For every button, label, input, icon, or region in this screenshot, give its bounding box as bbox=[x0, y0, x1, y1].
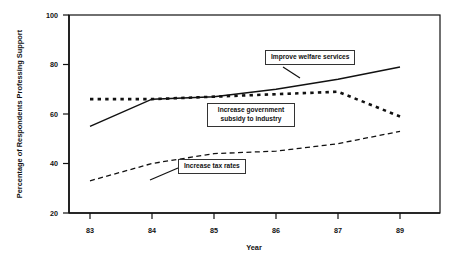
x-tick-label-83: 83 bbox=[86, 226, 94, 235]
x-tick-label-87: 87 bbox=[334, 226, 342, 235]
x-axis-title: Year bbox=[246, 243, 262, 252]
annotation-welfare-text: Improve welfare services bbox=[271, 53, 349, 60]
annotation-tax-text: Increase tax rates bbox=[184, 162, 240, 169]
x-tick-label-86: 86 bbox=[272, 226, 280, 235]
annotation-increase-tax-rates: Increase tax rates bbox=[178, 159, 246, 174]
callout-leader-tax bbox=[150, 168, 178, 180]
x-tick-label-84: 84 bbox=[148, 226, 156, 235]
chart-container: 100 80 60 40 20 83 84 85 86 87 89 Year P… bbox=[0, 0, 460, 262]
line-chart-plot: 100 80 60 40 20 83 84 85 86 87 89 Year P… bbox=[0, 0, 460, 262]
y-tick-label-60: 60 bbox=[50, 110, 58, 119]
callout-leader-welfare bbox=[283, 67, 300, 78]
annotation-increase-government-subsidy: Increase government subsidy to industry bbox=[207, 103, 295, 127]
annotation-subsidy-line1: Increase government bbox=[218, 106, 284, 113]
annotation-improve-welfare-services: Improve welfare services bbox=[265, 50, 355, 65]
y-tick-label-40: 40 bbox=[50, 159, 58, 168]
y-tick-label-80: 80 bbox=[50, 60, 58, 69]
y-tick-label-100: 100 bbox=[46, 11, 58, 20]
y-axis-title: Percentage of Respondents Professing Sup… bbox=[15, 29, 24, 198]
x-tick-label-89: 89 bbox=[396, 226, 404, 235]
x-tick-label-85: 85 bbox=[210, 226, 218, 235]
annotation-subsidy-line2: subsidy to industry bbox=[221, 115, 282, 122]
y-tick-label-20: 20 bbox=[50, 209, 58, 218]
